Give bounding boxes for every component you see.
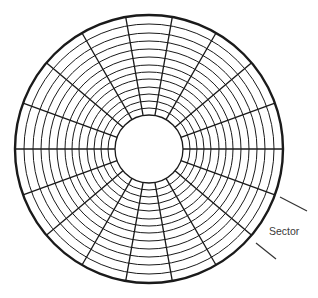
sector-pointer-line: [256, 243, 276, 259]
sector-boundary-line: [23, 103, 117, 137]
sector-boundary-line: [155, 17, 172, 115]
sector-label: Sector: [269, 225, 299, 237]
sector-boundary-line: [155, 182, 172, 280]
sector-boundary-line: [181, 161, 275, 195]
disk-platter-diagram: [0, 0, 318, 298]
track-circle: [108, 108, 190, 190]
sector-boundary-line: [181, 103, 275, 137]
inner-hole-edge: [115, 115, 183, 183]
sector-boundary-line: [126, 17, 143, 115]
sector-boundary-line: [126, 182, 143, 280]
sector-boundary-line: [23, 161, 117, 195]
sector-pointer-line: [280, 197, 307, 211]
